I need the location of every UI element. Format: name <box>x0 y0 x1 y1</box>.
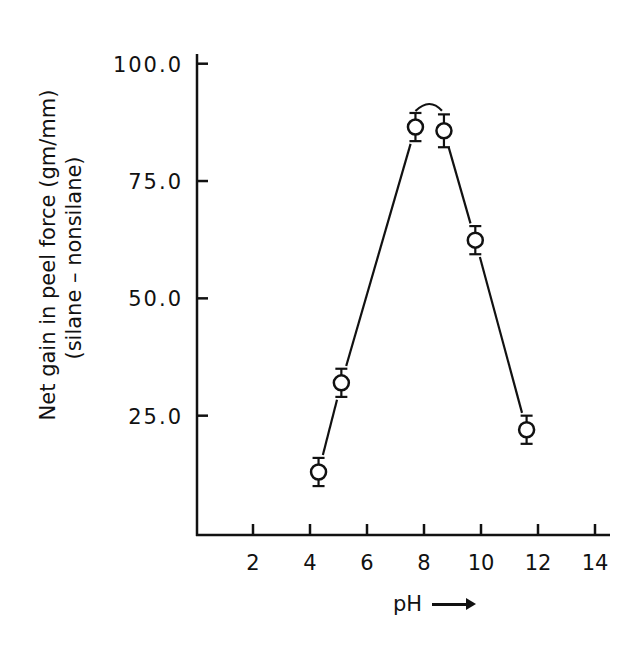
x-tick-label: 6 <box>360 551 373 575</box>
open-circle-marker <box>436 123 451 138</box>
line-segment <box>323 400 337 455</box>
data-point <box>334 369 349 397</box>
data-point <box>519 416 534 444</box>
open-circle-marker <box>519 422 534 437</box>
y-axis-subtitle: (silane – nonsilane) <box>62 156 86 359</box>
right-arrow-icon <box>432 603 472 606</box>
peak-curve <box>415 104 442 111</box>
open-circle-marker <box>408 120 423 135</box>
data-point <box>468 226 483 254</box>
line-segment <box>480 257 522 413</box>
x-axis-title: pH <box>393 592 472 616</box>
x-tick-label: 14 <box>582 551 609 575</box>
y-tick-label: 100.0 <box>113 53 183 77</box>
y-ticks: 25.050.075.0100.0 <box>113 53 208 429</box>
y-tick-label: 50.0 <box>128 287 183 311</box>
data-point <box>311 458 326 486</box>
x-tick-label: 10 <box>468 551 495 575</box>
y-tick-label: 25.0 <box>128 405 183 429</box>
axes <box>196 54 610 536</box>
y-axis-title: Net gain in peel force (gm/mm) <box>36 90 60 421</box>
open-circle-marker <box>311 464 326 479</box>
data-line <box>323 104 522 455</box>
line-segment <box>449 148 471 224</box>
line-segment <box>346 144 410 366</box>
data-point <box>408 113 423 141</box>
open-circle-marker <box>468 233 483 248</box>
data-point <box>436 114 451 147</box>
y-tick-label: 75.0 <box>128 170 183 194</box>
x-tick-label: 8 <box>417 551 430 575</box>
data-markers <box>311 113 534 486</box>
x-ticks: 2468101214 <box>246 524 608 575</box>
x-tick-label: 2 <box>246 551 259 575</box>
x-tick-label: 4 <box>303 551 316 575</box>
chart: 25.050.075.0100.0 2468101214 Net gain in… <box>0 0 644 648</box>
x-axis-title-text: pH <box>393 592 422 616</box>
x-tick-label: 12 <box>525 551 552 575</box>
open-circle-marker <box>334 375 349 390</box>
